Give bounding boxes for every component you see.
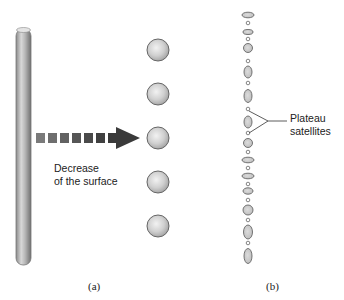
arrow-dash — [48, 133, 57, 143]
main-drop — [243, 188, 253, 194]
main-drop — [244, 90, 252, 103]
main-drop — [244, 249, 252, 264]
main-drop — [243, 30, 253, 35]
annotation-line1: Plateau — [290, 112, 326, 124]
liquid-column — [16, 28, 31, 266]
main-drop — [242, 173, 254, 179]
arrow-dash — [72, 133, 81, 143]
main-drop — [244, 44, 253, 53]
main-drop — [243, 205, 253, 215]
sphere — [147, 171, 169, 193]
caption-a: (a) — [88, 280, 100, 292]
main-drop — [244, 66, 252, 78]
main-drop — [242, 157, 254, 163]
drop-chain — [242, 12, 254, 263]
satellite-drop — [246, 37, 250, 41]
arrow-dash — [96, 133, 105, 143]
droplet-spheres — [147, 39, 169, 237]
main-drop — [242, 12, 254, 18]
caption-b: (b) — [266, 280, 279, 292]
main-drop — [244, 139, 253, 148]
arrow-head — [108, 127, 140, 149]
annotation-line2: satellites — [290, 125, 331, 137]
arrow-label-line2: of the surface — [54, 175, 118, 187]
satellite-drop — [246, 150, 250, 154]
satellite-drop — [246, 59, 250, 63]
figure-canvas — [0, 0, 344, 300]
arrow-dash — [36, 133, 45, 143]
satellite-drop — [246, 241, 250, 245]
arrow-label-line1: Decrease — [54, 162, 99, 174]
main-drop — [244, 116, 252, 128]
satellite-drop — [246, 218, 250, 222]
arrow-dash — [84, 133, 93, 143]
satellite-drop — [246, 182, 250, 186]
arrow-dash — [60, 133, 69, 143]
sphere — [147, 39, 169, 61]
satellite-drop — [246, 166, 250, 170]
sphere — [147, 215, 169, 237]
decrease-arrow — [36, 127, 140, 149]
satellite-pointer-lines — [249, 111, 287, 133]
satellite-drop — [246, 198, 250, 202]
satellite-drop — [246, 81, 250, 85]
satellite-drop — [246, 21, 250, 25]
main-drop — [244, 225, 253, 239]
satellite-drop — [246, 107, 250, 111]
sphere — [147, 127, 169, 149]
sphere — [147, 83, 169, 105]
